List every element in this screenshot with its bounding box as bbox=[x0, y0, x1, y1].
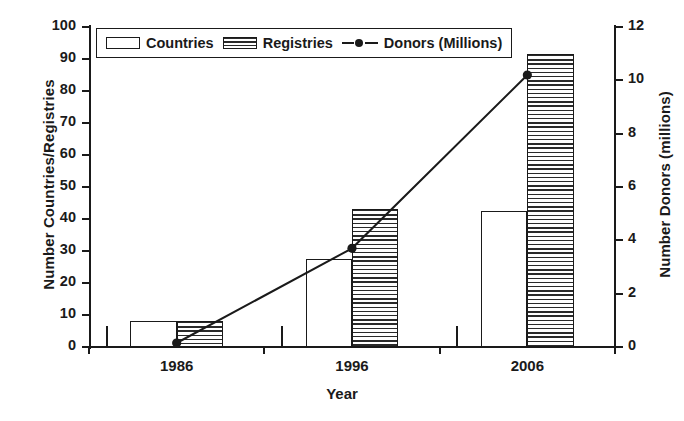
y-axis-left-tick bbox=[82, 154, 91, 156]
x-axis-tick bbox=[439, 346, 441, 354]
y-axis-left-tick-label: 100 bbox=[30, 17, 76, 33]
y-axis-left-tick-label: 60 bbox=[30, 145, 76, 161]
y-axis-right-tick bbox=[614, 79, 623, 81]
y-axis-left-tick bbox=[82, 314, 91, 316]
y-axis-left-tick-label: 10 bbox=[30, 305, 76, 321]
chart-figure: Number Countries/Registries Number Donor… bbox=[0, 0, 684, 421]
y-axis-left-tick bbox=[82, 282, 91, 284]
y-axis-right-tick bbox=[614, 133, 623, 135]
x-axis-category-separator bbox=[281, 326, 283, 348]
y-axis-right-tick bbox=[614, 26, 623, 28]
y-axis-left-tick-label: 0 bbox=[30, 337, 76, 353]
legend-item-registries: Registries bbox=[223, 35, 333, 51]
x-axis-tick bbox=[88, 346, 90, 354]
bar-countries bbox=[481, 211, 527, 347]
y-axis-right-tick bbox=[614, 186, 623, 188]
y-axis-right-tick-label: 8 bbox=[628, 124, 668, 140]
y-axis-right-tick-label: 6 bbox=[628, 177, 668, 193]
y-axis-right-tick bbox=[614, 293, 623, 295]
y-axis-right-tick-label: 2 bbox=[628, 284, 668, 300]
y-axis-left-tick bbox=[82, 122, 91, 124]
bar-countries bbox=[130, 321, 176, 347]
legend-item-countries: Countries bbox=[106, 35, 214, 51]
bar-registries bbox=[527, 54, 573, 347]
x-axis-tick-label: 1986 bbox=[132, 357, 222, 374]
y-axis-left-tick-label: 70 bbox=[30, 113, 76, 129]
chart-legend: Countries Registries Donors (Millions) bbox=[96, 28, 512, 58]
x-axis-tick bbox=[263, 346, 265, 354]
legend-swatch-donors-icon bbox=[342, 37, 378, 49]
y-axis-left-tick bbox=[82, 218, 91, 220]
y-axis-left-tick bbox=[82, 186, 91, 188]
legend-label-registries: Registries bbox=[263, 35, 333, 51]
x-axis-tick-label: 1996 bbox=[307, 357, 397, 374]
y-axis-left-tick-label: 80 bbox=[30, 81, 76, 97]
y-axis-right-tick-label: 10 bbox=[628, 70, 668, 86]
y-axis-left-tick-label: 40 bbox=[30, 209, 76, 225]
x-axis-tick bbox=[614, 346, 616, 354]
y-axis-left-tick bbox=[82, 90, 91, 92]
x-axis-title: Year bbox=[0, 385, 684, 402]
y-axis-right-tick-label: 0 bbox=[628, 337, 668, 353]
y-axis-left-tick bbox=[82, 250, 91, 252]
bar-registries bbox=[352, 209, 398, 347]
y-axis-left-tick bbox=[82, 58, 91, 60]
legend-label-countries: Countries bbox=[146, 35, 214, 51]
y-axis-left-tick-label: 20 bbox=[30, 273, 76, 289]
y-axis-left-tick-label: 50 bbox=[30, 177, 76, 193]
legend-item-donors: Donors (Millions) bbox=[342, 35, 502, 51]
y-axis-left-tick bbox=[82, 26, 91, 28]
legend-label-donors: Donors (Millions) bbox=[384, 35, 502, 51]
x-axis-category-separator bbox=[106, 326, 108, 348]
y-axis-left-tick-label: 90 bbox=[30, 49, 76, 65]
x-axis-tick-label: 2006 bbox=[482, 357, 572, 374]
x-axis-category-separator bbox=[456, 326, 458, 348]
y-axis-right-tick bbox=[614, 239, 623, 241]
bar-countries bbox=[306, 259, 352, 347]
y-axis-right-tick-label: 4 bbox=[628, 230, 668, 246]
bar-registries bbox=[177, 321, 223, 347]
legend-swatch-registries-icon bbox=[223, 37, 257, 49]
y-axis-right-tick-label: 12 bbox=[628, 17, 668, 33]
legend-swatch-countries-icon bbox=[106, 37, 140, 49]
y-axis-left-tick-label: 30 bbox=[30, 241, 76, 257]
